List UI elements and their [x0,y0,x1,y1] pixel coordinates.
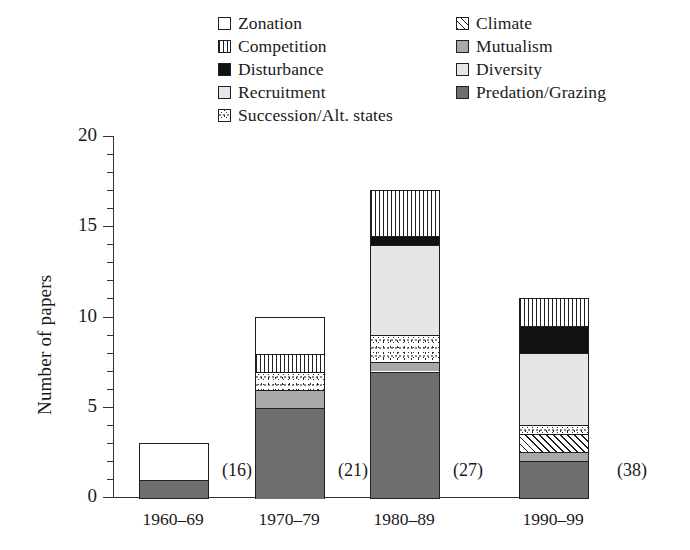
y-axis-minor-tick [107,208,113,209]
bar-segment-mutualism [520,452,588,461]
legend-item: Mutualism [456,35,671,58]
y-axis-minor-tick [107,154,113,155]
y-axis-minor-tick [107,443,113,444]
bar-segment-competition [520,299,588,326]
bar-1960–69 [139,443,209,499]
bar-segment-disturbance [520,326,588,353]
legend-label: Climate [476,14,532,33]
chart-figure: ZonationCompetitionDisturbanceRecruitmen… [0,0,690,550]
legend-swatch-dark-gray-icon [456,86,469,99]
legend-label: Diversity [476,60,542,79]
bar-segment-climate [520,434,588,452]
bar-segment-predation-grazing [371,372,439,498]
y-axis-tick-label: 5 [57,395,97,417]
category-count-annotation: (21) [338,460,368,481]
legend-item: Predation/Grazing [456,81,671,104]
legend-label: Predation/Grazing [476,83,606,102]
y-axis-label: Number of papers [34,275,56,415]
bar-segment-diversity [371,245,439,335]
y-axis-minor-tick [107,244,113,245]
bar-segment-disturbance [371,236,439,245]
segment-divider [520,461,588,462]
segment-divider [256,372,324,373]
legend-swatch-very-light-gray-icon [218,86,231,99]
segment-divider [520,452,588,453]
y-axis-major-tick [103,136,113,137]
x-axis-tick-label: 1980–89 [334,509,474,530]
legend-label: Succession/Alt. states [238,106,393,125]
chart-legend: ZonationCompetitionDisturbanceRecruitmen… [218,12,668,142]
x-axis-tick-label: 1990–99 [483,509,623,530]
y-axis-minor-tick [107,262,113,263]
category-count-annotation: (27) [453,460,483,481]
segment-divider [520,434,588,435]
y-axis-minor-tick [107,389,113,390]
y-axis-minor-tick [107,335,113,336]
y-axis-major-tick [103,226,113,227]
legend-swatch-speckled-icon [218,109,231,122]
legend-item: Disturbance [218,58,458,81]
segment-divider [371,335,439,336]
legend-swatch-vertical-lines-icon [218,40,231,53]
bar-segment-mutualism [256,390,324,408]
segment-divider [371,362,439,363]
segment-divider [520,326,588,327]
segment-divider [371,372,439,373]
y-axis-minor-tick [107,353,113,354]
y-axis-minor-tick [107,425,113,426]
bar-1990–99 [519,298,589,499]
category-count-annotation: (38) [617,460,647,481]
legend-label: Disturbance [238,60,324,79]
legend-label: Recruitment [238,83,326,102]
bar-1980–89 [370,190,440,499]
legend-label: Zonation [238,14,302,33]
segment-divider [371,236,439,237]
bar-segment-predation-grazing [140,480,208,498]
segment-divider [520,353,588,354]
y-axis-major-tick [103,497,113,498]
bar-segment-succession-alt-states [520,425,588,434]
y-axis-minor-tick [107,172,113,173]
legend-item: Climate [456,12,671,35]
legend-column-right: ClimateMutualismDiversityPredation/Grazi… [456,12,671,104]
legend-swatch-blank-icon [218,17,231,30]
segment-divider [371,245,439,246]
y-axis-major-tick [103,407,113,408]
category-count-annotation: (16) [222,460,252,481]
legend-swatch-diagonal-hatch-icon [456,17,469,30]
y-axis-tick-label: 15 [57,214,97,236]
y-axis-major-tick [103,317,113,318]
legend-item: Zonation [218,12,458,35]
bar-segment-predation-grazing [520,461,588,497]
y-axis-minor-tick [107,280,113,281]
legend-label: Competition [238,37,327,56]
y-axis-minor-tick [107,461,113,462]
bar-1970–79 [255,317,325,499]
bar-segment-zonation [140,444,208,480]
segment-divider [256,354,324,355]
legend-item: Competition [218,35,458,58]
legend-swatch-light-gray-icon [456,63,469,76]
bar-segment-competition [371,191,439,236]
y-axis-tick-label: 10 [57,305,97,327]
y-axis-minor-tick [107,190,113,191]
bar-segment-competition [256,354,324,372]
y-axis-tick-label: 0 [57,485,97,507]
legend-swatch-medium-gray-icon [456,40,469,53]
y-axis-minor-tick [107,371,113,372]
legend-item: Succession/Alt. states [218,104,458,127]
bar-segment-zonation [256,318,324,354]
legend-swatch-black-icon [218,63,231,76]
legend-column-left: ZonationCompetitionDisturbanceRecruitmen… [218,12,458,127]
legend-label: Mutualism [476,37,553,56]
y-axis-tick-label: 20 [57,124,97,146]
y-axis-minor-tick [107,298,113,299]
bar-segment-succession-alt-states [256,372,324,390]
bar-segment-diversity [520,353,588,425]
y-axis-minor-tick [107,479,113,480]
legend-item: Recruitment [218,81,458,104]
bar-segment-predation-grazing [256,408,324,498]
legend-item: Diversity [456,58,671,81]
bar-segment-mutualism [371,362,439,371]
y-axis-line [113,136,114,498]
